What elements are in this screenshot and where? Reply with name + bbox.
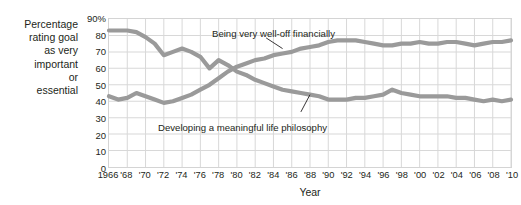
x-axis-tick-label: '80	[230, 170, 242, 180]
y-axis-tick-label: 40	[95, 96, 106, 107]
y-axis-tick-label: 50	[95, 79, 106, 90]
chart-figure: Percentagerating goalas veryimportantore…	[0, 0, 521, 205]
y-axis-tick-label: 90%	[87, 13, 106, 24]
y-axis-title-line: rating goal	[0, 31, 78, 44]
y-axis-title-line: or	[0, 71, 78, 84]
annotation-leader-lines	[109, 19, 511, 167]
x-axis-tick-label: '82	[249, 170, 261, 180]
x-axis-tick-label: '68	[120, 170, 132, 180]
y-axis-tick-label: 30	[95, 113, 106, 124]
x-axis-tick-label: '98	[396, 170, 408, 180]
y-axis-tick-label: 60	[95, 63, 106, 74]
x-axis-tick-label: '76	[194, 170, 206, 180]
y-axis-title: Percentagerating goalas veryimportantore…	[0, 18, 78, 97]
y-axis-title-line: important	[0, 58, 78, 71]
x-axis-tick-label: '94	[359, 170, 371, 180]
annotation-label-life-philosophy: Developing a meaningful life philosophy	[158, 122, 327, 133]
x-axis-tick-label: '08	[488, 170, 500, 180]
x-axis-tick-label: '10	[506, 170, 518, 180]
x-axis-tick-label: '72	[157, 170, 169, 180]
x-axis-tick-label: '88	[304, 170, 316, 180]
y-axis-title-line: as very	[0, 44, 78, 57]
x-axis-tick-label: 1966	[98, 170, 119, 180]
x-axis-tick-label: '06	[469, 170, 481, 180]
annotation-label-well-off: Being very well-off financially	[212, 28, 335, 39]
plot-area	[108, 18, 512, 168]
x-axis-tick-label: '92	[341, 170, 353, 180]
x-axis-tick-label: '90	[322, 170, 334, 180]
x-axis-tick-label: '02	[432, 170, 444, 180]
x-axis-title: Year	[108, 186, 512, 198]
x-axis-tick-labels: 1966'68'70'72'74'76'78'80'82'84'86'88'90…	[108, 170, 512, 184]
x-axis-tick-label: '86	[286, 170, 298, 180]
y-axis-tick-label: 70	[95, 46, 106, 57]
y-axis-tick-label: 20	[95, 129, 106, 140]
y-axis-tick-label: 10	[95, 146, 106, 157]
y-axis-title-line: essential	[0, 84, 78, 97]
y-axis-title-line: Percentage	[0, 18, 78, 31]
y-axis-tick-label: 80	[95, 29, 106, 40]
x-axis-tick-label: '96	[377, 170, 389, 180]
x-axis-tick-label: '70	[139, 170, 151, 180]
x-axis-tick-label: '78	[212, 170, 224, 180]
x-axis-tick-label: '84	[267, 170, 279, 180]
x-axis-tick-label: '74	[175, 170, 187, 180]
y-axis-tick-labels: 90%80706050403020100	[80, 18, 106, 168]
x-axis-tick-label: '00	[414, 170, 426, 180]
x-axis-tick-label: '04	[451, 170, 463, 180]
